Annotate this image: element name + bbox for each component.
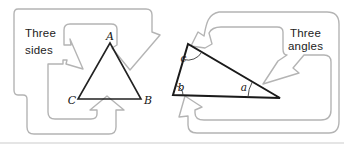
vertex-label-B: B [143, 94, 152, 107]
triangle-angles: c b a [173, 44, 280, 98]
angle-label-a: a [241, 81, 247, 93]
vertex-label-A: A [105, 30, 114, 43]
three-angles-caption-line1: Three [290, 27, 321, 39]
geometry-diagram: Three sides A C B Three angles c b a [0, 0, 344, 147]
diagram-canvas: Three sides A C B Three angles c b a [0, 0, 344, 147]
triangle-angles-outline [173, 44, 280, 98]
angle-label-c: c [181, 52, 187, 64]
vertex-label-C: C [68, 94, 77, 107]
three-sides-caption-line2: sides [25, 44, 53, 56]
angle-label-b: b [178, 81, 185, 93]
three-sides-caption-line1: Three [25, 27, 56, 39]
three-sides-arrow-network: Three sides [14, 9, 160, 134]
three-angles-caption-line2: angles [288, 40, 323, 52]
